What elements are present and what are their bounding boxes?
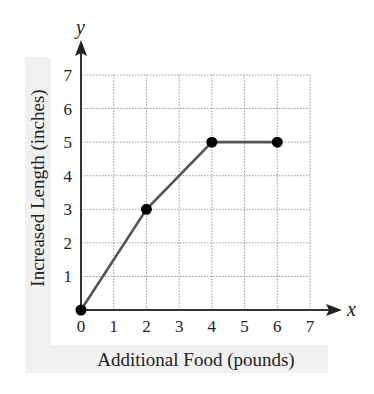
x-tick-label: 5 xyxy=(240,317,249,336)
axes: x y xyxy=(74,16,356,320)
y-tick-label: 2 xyxy=(64,234,73,253)
y-tick-label: 4 xyxy=(64,167,73,186)
x-axis-label: Additional Food (pounds) xyxy=(97,349,294,371)
data-point xyxy=(76,305,87,316)
x-tick-label: 0 xyxy=(77,317,86,336)
data-point xyxy=(206,137,217,148)
y-tick-label: 5 xyxy=(64,133,73,152)
y-axis-label: Increased Length (inches) xyxy=(27,89,49,286)
x-tick-label: 4 xyxy=(208,317,217,336)
y-tick-label: 6 xyxy=(64,100,73,119)
x-tick-label: 7 xyxy=(306,317,315,336)
y-tick-label: 3 xyxy=(64,200,73,219)
data-point xyxy=(141,204,152,215)
x-tick-label: 1 xyxy=(109,317,118,336)
y-tick-label: 7 xyxy=(64,66,73,85)
x-tick-label: 3 xyxy=(175,317,184,336)
data-point xyxy=(272,137,283,148)
x-axis-variable: x xyxy=(346,298,356,320)
x-tick-label: 2 xyxy=(142,317,151,336)
y-tick-label: 1 xyxy=(64,267,73,286)
gridlines xyxy=(81,75,310,310)
line-chart: x y 01234567 1234567 Additional Food (po… xyxy=(0,0,374,394)
x-tick-label: 6 xyxy=(273,317,282,336)
y-tick-labels: 1234567 xyxy=(64,66,73,286)
x-tick-labels: 01234567 xyxy=(77,317,315,336)
y-axis-variable: y xyxy=(74,16,85,39)
